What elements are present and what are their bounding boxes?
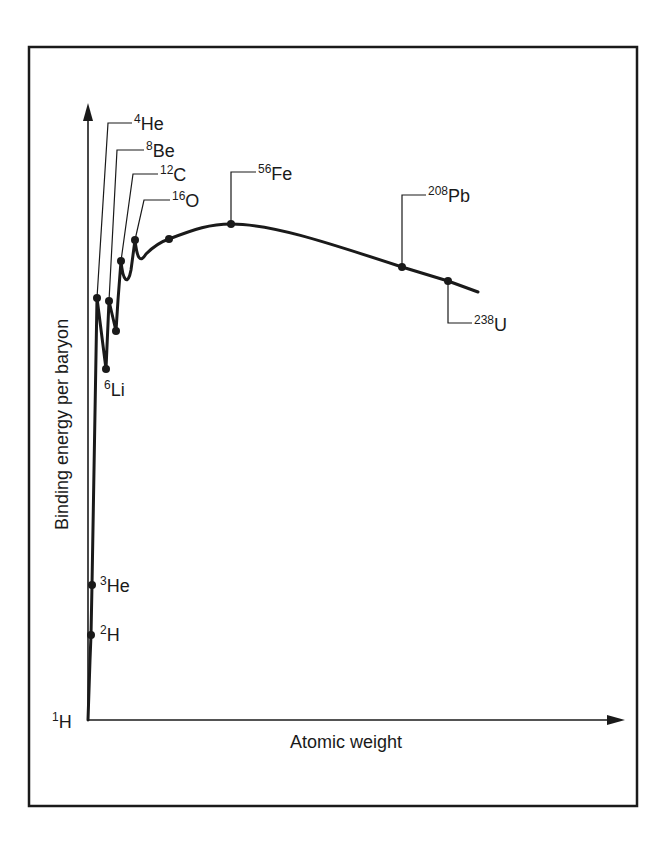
y-axis-arrow-icon xyxy=(83,103,93,121)
data-points xyxy=(87,220,452,639)
label-1h: 1H xyxy=(52,710,72,732)
leader-208pb xyxy=(402,195,426,267)
label-12c: 12C xyxy=(160,163,186,185)
leader-56fe xyxy=(231,172,256,224)
point-6li xyxy=(102,365,110,373)
label-6li: 6Li xyxy=(104,378,125,400)
label-208pb: 208Pb xyxy=(428,184,470,206)
label-56fe: 56Fe xyxy=(258,162,292,184)
y-axis-title: Binding energy per baryon xyxy=(52,319,72,530)
label-238u: 238U xyxy=(474,313,507,335)
x-axis-title: Atomic weight xyxy=(290,732,402,752)
leader-4he xyxy=(97,123,132,298)
point-24 xyxy=(165,235,173,243)
point-10b xyxy=(112,327,120,335)
label-4he: 4He xyxy=(134,112,164,134)
x-axis-arrow-icon xyxy=(607,715,625,725)
label-3he: 3He xyxy=(100,574,130,596)
label-16o: 16O xyxy=(172,189,199,211)
label-2h: 2H xyxy=(100,623,120,645)
binding-energy-curve xyxy=(88,224,478,720)
leader-16o xyxy=(135,200,170,240)
figure-frame xyxy=(29,47,637,806)
binding-energy-diagram: Atomic weight Binding energy per baryon … xyxy=(0,0,672,843)
label-8be: 8Be xyxy=(146,139,175,161)
isotope-labels: 1H 2H 3He 4He 6Li 8Be 12C 16O 56Fe 208Pb xyxy=(52,112,507,732)
point-2h xyxy=(87,631,95,639)
point-3he xyxy=(88,581,96,589)
x-axis xyxy=(88,715,625,725)
